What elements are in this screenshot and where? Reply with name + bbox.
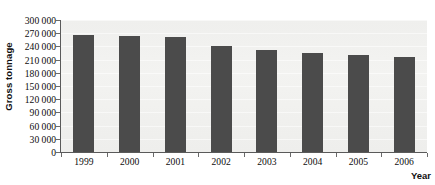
y-axis-tick-label: 180 000 — [25, 67, 56, 78]
bar — [348, 55, 369, 152]
x-axis-tick-label: 2006 — [395, 156, 414, 167]
y-axis-tick-label: 30 000 — [30, 133, 56, 144]
y-axis-tick-label: 120 000 — [25, 94, 56, 105]
y-axis-tick-label: 300 000 — [25, 15, 56, 26]
x-axis-tick-label: 2000 — [120, 156, 139, 167]
x-axis-tick-mark — [61, 153, 62, 157]
x-axis-tick-labels: 19992000200120022003200420052006 — [61, 156, 427, 170]
y-axis-tick-mark — [55, 112, 60, 113]
x-axis-tick-mark — [198, 153, 199, 157]
x-axis-tick-label: 2003 — [257, 156, 276, 167]
y-axis-tick-mark — [55, 33, 60, 34]
y-axis-tick-mark — [55, 60, 60, 61]
y-axis-tick-label: 60 000 — [30, 120, 56, 131]
y-axis-tick-mark — [55, 99, 60, 100]
y-axis-tick-labels: 300 000270 000240 000210 000180 000150 0… — [16, 16, 60, 156]
x-axis-title: Year — [411, 170, 431, 181]
x-axis-tick-mark — [336, 153, 337, 157]
x-axis-tick-mark — [427, 153, 428, 157]
y-axis-title-label: Gross tonnage — [3, 42, 14, 110]
bar — [302, 53, 323, 152]
x-axis-tick-mark — [153, 153, 154, 157]
bar — [73, 35, 94, 152]
y-axis-tick-label: 240 000 — [25, 41, 56, 52]
x-axis-tick-label: 2002 — [212, 156, 231, 167]
y-axis-tick-mark — [55, 152, 60, 153]
bars-layer — [61, 20, 427, 152]
bar — [119, 36, 140, 152]
y-axis-tick-mark — [55, 139, 60, 140]
bar — [211, 46, 232, 152]
y-axis-tick-label: 210 000 — [25, 54, 56, 65]
bar — [165, 37, 186, 152]
x-axis-tick-mark — [381, 153, 382, 157]
bar-chart-figure: Gross tonnage 300 000270 000240 000210 0… — [0, 0, 435, 185]
y-axis-tick-mark — [55, 126, 60, 127]
x-axis-tick-label: 2005 — [349, 156, 368, 167]
bar — [394, 57, 415, 152]
y-axis-tick-mark — [55, 20, 60, 21]
y-axis-tick-label: 270 000 — [25, 28, 56, 39]
y-axis-tick-label: 90 000 — [30, 107, 56, 118]
y-axis-tick-mark — [55, 46, 60, 47]
y-axis-tick-label: 150 000 — [25, 81, 56, 92]
bar — [256, 50, 277, 152]
x-axis-tick-label: 1999 — [74, 156, 93, 167]
x-axis-tick-label: 2004 — [303, 156, 322, 167]
x-axis-tick-mark — [290, 153, 291, 157]
y-axis-line — [60, 20, 61, 153]
x-axis-tick-mark — [244, 153, 245, 157]
y-axis-tick-mark — [55, 86, 60, 87]
y-axis-tick-mark — [55, 73, 60, 74]
y-axis-title: Gross tonnage — [0, 0, 16, 152]
x-axis-tick-mark — [107, 153, 108, 157]
x-axis-tick-label: 2001 — [166, 156, 185, 167]
